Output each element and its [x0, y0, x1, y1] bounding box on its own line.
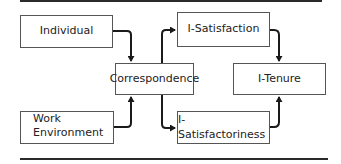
node-work-environment-label-line2: Environment: [33, 126, 103, 140]
node-i-tenure-label: I-Tenure: [258, 72, 301, 86]
node-work-environment-label-line1: Work: [33, 112, 61, 126]
node-i-satisfactoriness: I-Satisfactoriness: [177, 111, 270, 144]
node-correspondence-label: Correspondence: [110, 72, 200, 86]
node-correspondence: Correspondence: [115, 63, 194, 95]
node-i-satisfaction: I-Satisfaction: [177, 12, 270, 47]
arrow-correspondence-to-i-satisfaction: [162, 30, 175, 63]
arrow-i-satisfactoriness-to-i-tenure: [270, 97, 279, 127]
node-work-environment: Work Environment: [20, 111, 114, 144]
node-individual: Individual: [20, 15, 113, 48]
arrow-work-environment-to-correspondence: [114, 97, 131, 127]
arrow-i-satisfaction-to-i-tenure: [270, 30, 279, 61]
node-individual-label: Individual: [40, 24, 94, 38]
arrow-correspondence-to-i-satisfactoriness: [162, 95, 175, 128]
node-i-tenure: I-Tenure: [233, 63, 326, 95]
arrow-individual-to-correspondence: [113, 31, 131, 61]
node-i-satisfactoriness-label: I-Satisfactoriness: [178, 113, 269, 142]
node-i-satisfaction-label: I-Satisfaction: [188, 22, 260, 36]
